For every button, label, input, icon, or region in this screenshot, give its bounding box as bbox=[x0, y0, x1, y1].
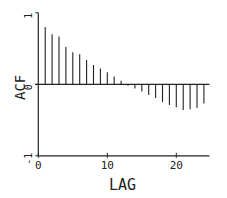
acf-chart: -10101020 ACF LAG bbox=[0, 0, 227, 198]
y-axis-label: ACF bbox=[12, 75, 28, 100]
x-tick-label: 20 bbox=[170, 159, 183, 172]
acf-plot-svg: -10101020 ACF LAG bbox=[0, 0, 227, 198]
x-tick-label: 0 bbox=[35, 159, 42, 172]
x-axis-label: LAG bbox=[109, 176, 136, 194]
x-tick-label: 10 bbox=[101, 159, 114, 172]
y-tick-label: 1 bbox=[23, 13, 34, 19]
axes: -10101020 bbox=[23, 13, 209, 172]
axis-labels: ACF LAG bbox=[12, 75, 136, 194]
y-tick-label: -1 bbox=[23, 153, 34, 165]
acf-stems bbox=[45, 27, 204, 110]
